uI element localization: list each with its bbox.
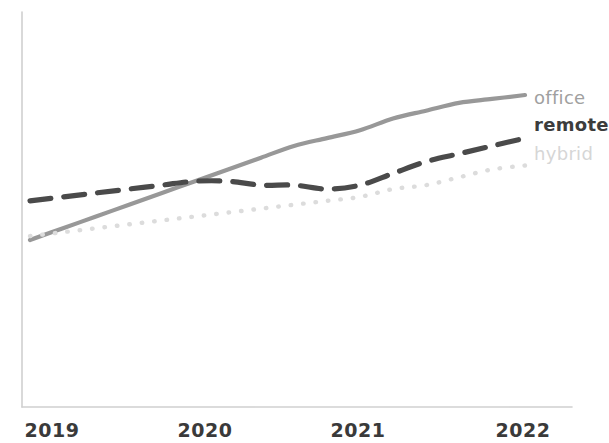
series-line-hybrid	[30, 166, 525, 237]
x-tick-2019: 2019	[25, 419, 80, 441]
series-line-remote	[30, 138, 525, 201]
x-tick-2021: 2021	[331, 419, 386, 441]
x-tick-2020: 2020	[178, 419, 233, 441]
legend-label-office: office	[534, 87, 585, 108]
series-line-office	[30, 95, 525, 240]
legend-label-remote: remote	[534, 114, 609, 135]
x-tick-2022: 2022	[496, 419, 551, 441]
legend-label-hybrid: hybrid	[534, 143, 593, 164]
